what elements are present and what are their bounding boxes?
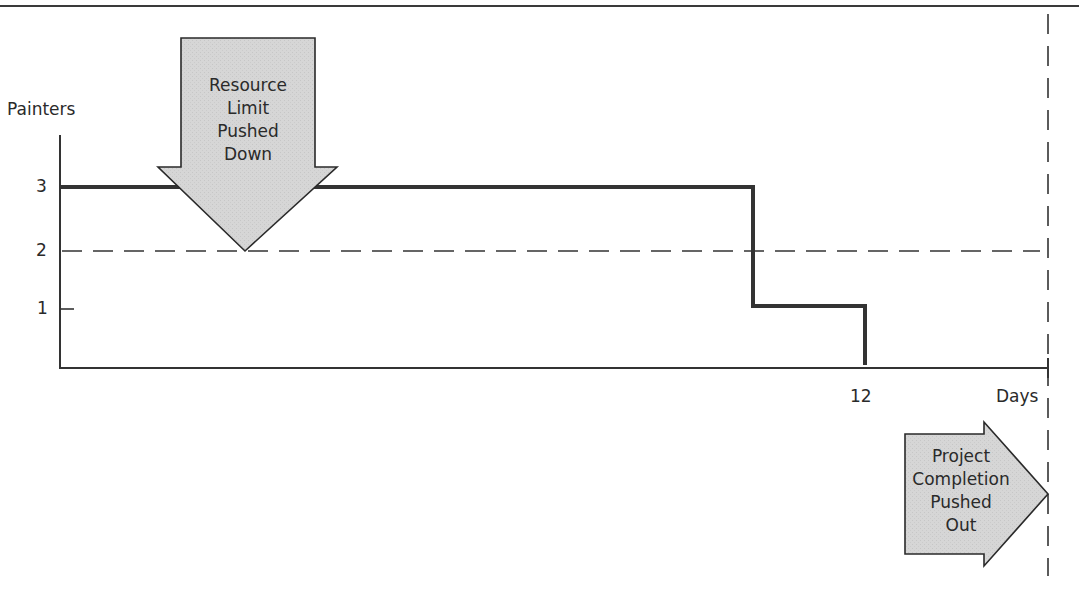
callout-line: Out [895, 514, 1027, 537]
painters-step-line [60, 187, 865, 365]
project-completion-callout: Project Completion Pushed Out [895, 445, 1027, 537]
x-tick-label-12: 12 [850, 386, 872, 406]
callout-line: Pushed [895, 491, 1027, 514]
y-tick-label-2: 2 [36, 240, 47, 260]
callout-line: Completion [895, 468, 1027, 491]
callout-line: Pushed [181, 120, 315, 143]
callout-line: Down [181, 143, 315, 166]
y-axis-label: Painters [7, 99, 75, 119]
callout-line: Resource [181, 74, 315, 97]
y-tick-label-3: 3 [36, 176, 47, 196]
callout-line: Project [895, 445, 1027, 468]
callout-line: Limit [181, 97, 315, 120]
y-tick-label-1: 1 [37, 298, 48, 318]
resource-limit-callout: Resource Limit Pushed Down [181, 74, 315, 166]
x-axis-label: Days [996, 386, 1038, 406]
